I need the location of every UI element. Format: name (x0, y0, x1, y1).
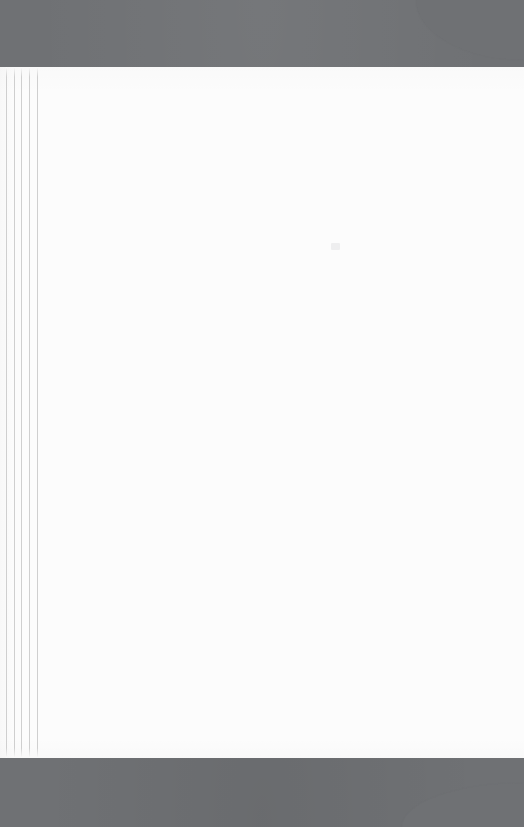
page-corner-bottom-right (402, 783, 524, 827)
page-body-text[interactable] (60, 85, 498, 740)
margin-rule-line-5 (37, 67, 38, 758)
page-corner-top-right (416, 0, 524, 60)
margin-rule-line-3 (21, 67, 22, 758)
margin-rule-lines (0, 67, 60, 758)
document-page-sheet[interactable] (0, 67, 524, 758)
margin-rule-line-4 (29, 67, 30, 758)
margin-rule-line-2 (14, 67, 15, 758)
screenshot-viewport (0, 0, 524, 827)
margin-rule-line-1 (6, 67, 7, 758)
